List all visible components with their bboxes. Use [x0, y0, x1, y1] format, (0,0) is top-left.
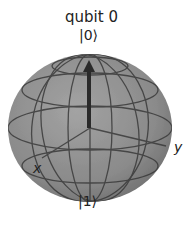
label-y-axis: y	[174, 139, 182, 155]
label-x-axis: x	[33, 160, 41, 176]
label-ket-one: |1⟩	[78, 193, 97, 209]
label-ket-zero: |0⟩	[79, 27, 98, 43]
